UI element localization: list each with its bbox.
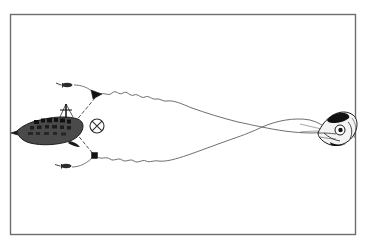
reference-mark: [90, 119, 104, 133]
lower-otter-board: [92, 153, 98, 159]
figure-container: midwater trawl fishing operation diagram: [0, 0, 367, 249]
trawl-diagram-svg: [0, 0, 367, 249]
